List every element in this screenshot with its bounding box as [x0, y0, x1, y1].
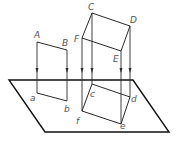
- label-c: c: [90, 89, 95, 99]
- label-D: D: [130, 15, 137, 25]
- label-d: d: [131, 94, 137, 104]
- label-b: b: [64, 104, 70, 114]
- label-f: f: [76, 116, 81, 126]
- arrow-icon: [129, 68, 132, 73]
- label-a: a: [30, 93, 36, 103]
- label-B: B: [62, 38, 68, 48]
- arrow-icon: [66, 68, 69, 73]
- label-e: e: [120, 121, 126, 131]
- arrow-icon: [91, 68, 94, 73]
- label-C: C: [88, 2, 95, 12]
- projection-plane: [9, 80, 169, 132]
- rectangle-CDEF: [82, 13, 130, 51]
- diagram-canvas: A B a b C D E F c d e f: [0, 0, 176, 155]
- projection-diagram: A B a b C D E F c d e f: [0, 0, 176, 155]
- arrow-icon: [81, 68, 84, 73]
- label-F: F: [74, 34, 80, 44]
- arrow-icon: [120, 68, 123, 73]
- label-A: A: [33, 30, 40, 40]
- segment-ab: [37, 93, 67, 101]
- arrow-icon: [36, 68, 39, 73]
- label-E: E: [113, 54, 119, 64]
